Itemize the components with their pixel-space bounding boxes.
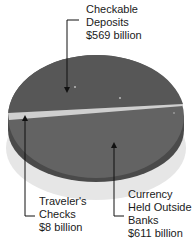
label-checkable-deposits: Checkable Deposits $569 billion (86, 3, 142, 42)
label-travelers-checks: Traveler's Checks $8 billion (39, 195, 87, 234)
label-currency: Currency Held Outside Banks $611 billion (128, 188, 192, 240)
